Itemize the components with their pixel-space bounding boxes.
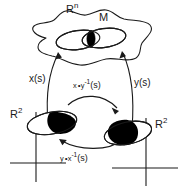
arrow-transition-x-after-y-inverse [68,96,119,114]
label-domain-right: R2 [155,117,167,130]
plane-ellipse-left [25,108,78,138]
label-manifold: M [99,12,108,23]
label-chart-x: x(s) [29,74,46,84]
diagram-canvas [0,0,180,187]
chart-patches-group [55,26,127,53]
label-domain-left-exponent: 2 [18,106,22,115]
label-transition-x-after-y-inverse: x∘y-1(s) [73,79,101,90]
manifold-chart-diagram: Rn M x(s) y(s) x∘y-1(s) y∘x-1(s) R2 R2 [0,0,180,187]
label-ambient-space: Rn [66,2,78,15]
label-chart-y: y(s) [134,78,151,88]
label-transition-y-after-x-inverse: y∘x-1(s) [60,152,88,163]
label-ambient-space-exponent: n [74,1,78,10]
arrow-chart-y [119,51,132,128]
label-domain-right-exponent: 2 [163,116,167,125]
label-domain-left: R2 [10,107,22,120]
